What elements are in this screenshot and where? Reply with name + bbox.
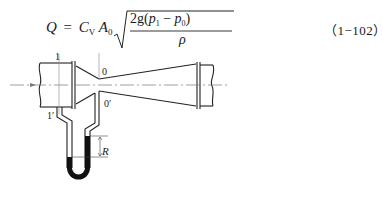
- fraction-numerator: 2g(p1 − p0): [130, 11, 190, 28]
- numerator-prefix: 2g(: [130, 11, 149, 26]
- pipe-break-right: [211, 65, 214, 106]
- label-section-0-prime: 0′: [104, 99, 111, 109]
- pressure-1: p: [149, 11, 156, 26]
- equation-number: （1−102）: [324, 20, 383, 39]
- equals-sign: =: [64, 19, 72, 35]
- flow-rate-symbol: Q: [46, 19, 57, 35]
- label-section-1: 1: [55, 52, 60, 62]
- coefficient-symbol: C: [79, 19, 89, 35]
- venturi-meter-diagram: [0, 50, 383, 200]
- area-symbol: A: [99, 19, 108, 35]
- area-subscript: 0: [108, 27, 113, 37]
- converging-top: [76, 66, 99, 79]
- fraction-denominator: ρ: [179, 32, 186, 48]
- equation-lhs: Q = CV A0: [46, 19, 112, 37]
- diverging-bottom: [99, 91, 196, 106]
- label-reading-r: R: [102, 146, 109, 156]
- label-section-1-prime: 1′: [47, 111, 54, 121]
- venturi-flow-equation: Q = CV A0 2g(p1 − p0) ρ （1−102）: [46, 8, 376, 50]
- manometer-fluid: [67, 136, 90, 180]
- diverging-top: [99, 64, 196, 79]
- flow-arrow-icon: [30, 83, 36, 87]
- minus-sign: −: [160, 11, 175, 26]
- u-tube-manometer: [57, 107, 99, 168]
- label-section-0: 0: [102, 67, 107, 77]
- coefficient-subscript: V: [89, 27, 96, 37]
- numerator-suffix: ): [186, 11, 191, 26]
- converging-bottom: [76, 93, 95, 104]
- pressure-0: p: [175, 11, 182, 26]
